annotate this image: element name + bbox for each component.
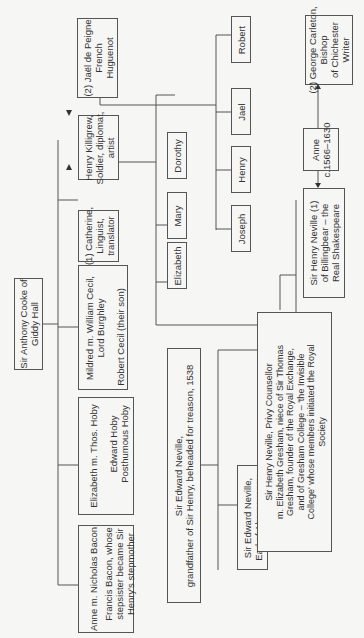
elizabeth-hoby-box: Elizabeth m. Thos. Hoby Edward HobyPosth…	[78, 397, 134, 515]
label: Francis Bacon, whose	[103, 527, 114, 620]
label: Soldier, diplomat,	[93, 111, 104, 184]
label: and of Gresham College – 'the Invisible	[295, 345, 306, 520]
label: Robert	[236, 25, 247, 54]
label: stepsister became Sir	[114, 527, 125, 620]
label: (2) Jaël de Peigne	[81, 19, 92, 96]
label: Henry's stepmother	[125, 527, 136, 620]
anne-carleton-box: Annec.1566–1630	[303, 128, 339, 171]
jael-de-peigne-box: (2) Jaël de PeigneFrenchHuguenot	[77, 18, 118, 98]
label: Joseph	[236, 213, 247, 244]
label: French	[92, 19, 103, 96]
label: Sir Henry Neville (1)	[308, 201, 319, 286]
label: Sir Anthony Cooke of	[18, 279, 29, 368]
label: Elizabeth	[172, 246, 183, 285]
label: Gresham, founder of the Royal Exchange,	[284, 345, 295, 520]
henry-neville-billingbear-box: Sir Henry Neville (1)of Billingbear – th…	[303, 188, 345, 298]
label: Mildred m. William Cecil,	[84, 276, 95, 380]
label: Society	[316, 345, 327, 520]
label: of Chichester	[329, 6, 340, 93]
label: Robert Cecil (their son)	[115, 288, 126, 386]
child-robert: Robert	[231, 16, 251, 63]
henry-neville-counsellor-box: Sir Henry Neville, Privy Counsellorm. El…	[257, 312, 332, 552]
label: Dorothy	[172, 139, 183, 172]
child-henry: Henry	[231, 146, 251, 193]
child-joseph: Joseph	[231, 205, 251, 252]
label: of Billingbear – the	[319, 201, 330, 286]
label: grandfather of Sir Henry, beheaded for t…	[184, 364, 195, 587]
root-anthony-cooke: Sir Anthony Cooke ofGiddy Hall	[14, 278, 43, 370]
label: c.1566–1630	[321, 122, 332, 177]
label: Anne m. Nicholas Bacon	[88, 527, 99, 631]
label: College' whose members initiated the Roy…	[305, 345, 316, 520]
child-dorothy: Dorothy	[167, 132, 187, 179]
george-carleton-box: (2) George Carleton,Bishopof ChichesterW…	[305, 15, 353, 85]
label: Henry Killigrew,	[82, 111, 93, 184]
anne-bacon-box: Anne m. Nicholas Bacon Francis Bacon, wh…	[78, 525, 134, 633]
label: Mary	[172, 205, 183, 226]
label: Bishop	[318, 6, 329, 93]
label: Anne	[310, 122, 321, 177]
label: Giddy Hall	[29, 279, 40, 368]
edward-neville-senior-box: Sir Edward Neville,grandfather of Sir He…	[167, 348, 201, 603]
child-mary: Mary	[167, 192, 187, 239]
label: Lord Burghley	[95, 276, 106, 380]
label: m. Elizabeth Gresham, niece of Sir Thoma…	[274, 345, 285, 520]
label: Writer	[340, 6, 351, 93]
label: Sir Edward Neville,	[173, 364, 184, 587]
label: Jael	[236, 103, 247, 120]
catherine-box: (1) Catherine,Linguist,translator	[78, 210, 119, 262]
label: translator	[104, 207, 115, 265]
label: (1) Catherine,	[82, 207, 93, 265]
label: Sir Henry Neville, Privy Counsellor	[263, 345, 274, 520]
label: Linguist,	[93, 207, 104, 265]
label: artist	[104, 111, 115, 184]
label: Sir Edward Neville,	[242, 475, 253, 561]
label: Posthumous Hoby	[119, 406, 130, 484]
label: Edward Hoby	[108, 406, 119, 484]
child-jael: Jael	[231, 88, 251, 135]
label: (2) George Carleton,	[307, 6, 318, 93]
label: Huguenot	[103, 19, 114, 96]
label: Elizabeth m. Thos. Hoby	[88, 404, 99, 507]
child-elizabeth: Elizabeth	[167, 242, 187, 289]
label: Henry	[236, 157, 247, 182]
mildred-cecil-box: Mildred m. William Cecil,Lord Burghley R…	[78, 265, 128, 390]
henry-killigrew-box: Henry Killigrew,Soldier, diplomat,artist	[78, 115, 119, 180]
label: Real Shakespeare	[330, 201, 341, 286]
